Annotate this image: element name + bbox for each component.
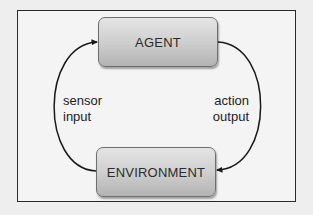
sensor-input-label: sensor input (63, 93, 102, 125)
action-output-label: action output (209, 93, 249, 125)
sensor-input-label-line-1: sensor (63, 93, 102, 109)
sensor-input-label-line-2: input (63, 109, 102, 125)
environment-node-label: ENVIRONMENT (107, 165, 205, 180)
diagram-canvas: AGENT ENVIRONMENT sensor input action ou… (0, 0, 313, 215)
agent-node-label: AGENT (135, 35, 181, 50)
agent-node: AGENT (98, 17, 218, 67)
action-output-label-line-1: action (209, 93, 249, 109)
environment-node: ENVIRONMENT (96, 147, 216, 197)
action-output-label-line-2: output (209, 109, 249, 125)
